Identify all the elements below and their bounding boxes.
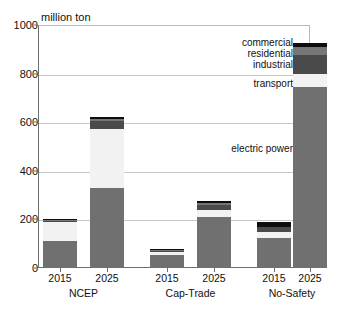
bar-cap-trade-2015[interactable] (150, 249, 184, 268)
bar-cap-trade-2025[interactable] (197, 201, 231, 269)
bar-ncep-2015[interactable] (43, 219, 77, 268)
industrial-segment (90, 121, 124, 128)
transport-segment (197, 210, 231, 217)
electric-power-segment (197, 217, 231, 268)
bar-ncep-2025[interactable] (90, 117, 124, 268)
transport-segment (43, 222, 77, 241)
electric-power-segment (150, 255, 184, 268)
x-tick-label-1: 2025 (85, 272, 129, 284)
electric-power-segment (257, 238, 291, 268)
x-group-label-no-safety: No-Safety (247, 287, 337, 299)
annotation-residential: residential (247, 48, 293, 59)
transport-segment (90, 129, 124, 189)
x-group-label-ncep: NCEP (39, 287, 129, 299)
annotation-electric-power: electric power (231, 143, 293, 154)
annotation-industrial: industrial (253, 59, 293, 70)
x-tick-label-3: 2025 (192, 272, 236, 284)
annotation-commercial: commercial (242, 37, 293, 48)
x-tick-label-0: 2015 (38, 272, 82, 284)
electric-power-segment (90, 188, 124, 268)
stacked-bar-chart: million ton 1000 800 600 400 200 0 comme… (0, 0, 337, 314)
bar-no-safety-2015[interactable] (257, 222, 291, 268)
annotation-transport: transport (254, 78, 293, 89)
residential-segment (293, 47, 327, 56)
x-group-label-cap-trade: Cap-Trade (146, 287, 236, 299)
x-tick-label-5: 2025 (288, 272, 332, 284)
bar-no-safety-2025[interactable] (293, 43, 327, 268)
x-axis-group-labels: NCEPCap-TradeNo-Safety (0, 287, 337, 305)
transport-segment (293, 74, 327, 87)
electric-power-segment (293, 87, 327, 268)
electric-power-segment (43, 241, 77, 268)
x-axis-labels: 201520252015202520152025 (0, 272, 337, 288)
industrial-segment (293, 55, 327, 73)
x-tick-label-2: 2015 (145, 272, 189, 284)
